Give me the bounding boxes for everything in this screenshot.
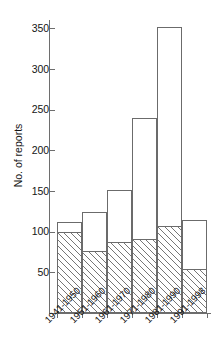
y-tick-label-200-wrap: 200	[18, 145, 49, 156]
y-tick-label-50-wrap: 50	[18, 267, 49, 278]
y-tick-label-250: 250	[23, 104, 49, 115]
y-tick-label-350: 350	[23, 23, 49, 34]
x-tick-6	[207, 313, 208, 318]
bar-group-1951-1960	[82, 20, 107, 313]
y-tick-label-250-wrap: 250	[18, 104, 49, 115]
y-tick-label-100-wrap: 100	[18, 226, 49, 237]
bar-group-1981-1990	[157, 20, 182, 313]
bar-group-1941-1950	[57, 20, 82, 313]
bar-group-1971-1980	[132, 20, 157, 313]
y-tick-label-100: 100	[23, 226, 49, 237]
y-tick-label-150: 150	[23, 186, 49, 197]
bar-group-1961-1970	[107, 20, 132, 313]
y-tick-label-150-wrap: 150	[18, 186, 49, 197]
y-tick-label-300: 300	[23, 64, 49, 75]
y-tick-label-200: 200	[23, 145, 49, 156]
plot-area	[50, 20, 211, 313]
y-tick-label-50: 50	[23, 267, 49, 278]
bar-group-1991-1998	[182, 20, 207, 313]
y-tick-label-350-wrap: 350	[18, 23, 49, 34]
bar-chart: No. of reports 350 300 250 200 150 100 5…	[0, 0, 215, 363]
y-tick-label-300-wrap: 300	[18, 64, 49, 75]
